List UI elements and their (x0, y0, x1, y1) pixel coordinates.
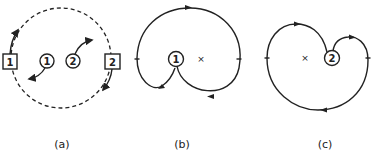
caption-c: (c) (318, 138, 333, 151)
circle-node-c-label: 2 (329, 53, 336, 64)
arrow-c-bottom (320, 108, 327, 113)
arrow-box2-down (103, 69, 112, 90)
circle-node-c: 2 (325, 51, 340, 66)
circle-node-2-label: 2 (70, 56, 77, 67)
box-node-1: 1 (3, 54, 17, 69)
caption-a: (a) (54, 138, 69, 151)
cardioid-path-b (137, 8, 240, 91)
circle-node-1: 1 (40, 54, 54, 68)
panel-c: 2 × (c) (265, 22, 371, 152)
circle-node-1-label: 1 (44, 56, 51, 67)
caption-b: (b) (174, 138, 190, 151)
arrow-circle2 (75, 40, 92, 54)
arrow-b-top (185, 5, 192, 10)
dashed-orbit (11, 8, 111, 108)
box-node-2: 2 (105, 54, 120, 69)
circle-node-2: 2 (66, 54, 80, 68)
panel-a: 1 2 1 2 (a) (3, 8, 120, 151)
box-node-2-label: 2 (109, 57, 116, 68)
center-mark-b: × (197, 54, 205, 64)
figure-canvas: 1 2 1 2 (a) (0, 0, 372, 160)
arrow-circle1 (29, 68, 45, 79)
circle-node-b: 1 (169, 52, 184, 67)
arrow-b-bottom (207, 94, 214, 99)
center-mark-c: × (301, 53, 309, 63)
panel-b: 1 × (b) (135, 5, 242, 151)
circle-node-b-label: 1 (173, 54, 180, 65)
arrow-c-top (294, 22, 301, 27)
box-node-1-label: 1 (7, 57, 14, 68)
